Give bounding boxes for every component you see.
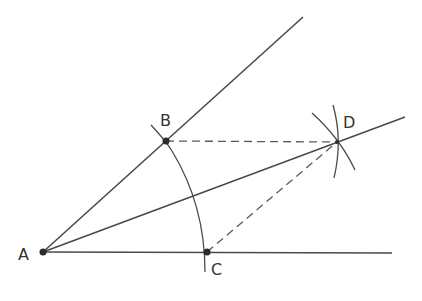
label-b: B: [160, 111, 171, 130]
point-d: [335, 140, 339, 144]
point-a: [40, 249, 47, 256]
label-c: C: [211, 260, 222, 279]
angle-bisector-diagram: A B C D: [0, 0, 422, 301]
segment-cd: [207, 142, 337, 252]
label-d: D: [343, 113, 355, 132]
lower-ray: [43, 252, 392, 253]
segment-bd: [166, 141, 337, 142]
point-b: [163, 138, 170, 145]
label-a: A: [18, 245, 29, 264]
point-c: [204, 249, 211, 256]
bisector-ray: [43, 117, 405, 252]
upper-ray: [43, 17, 303, 252]
